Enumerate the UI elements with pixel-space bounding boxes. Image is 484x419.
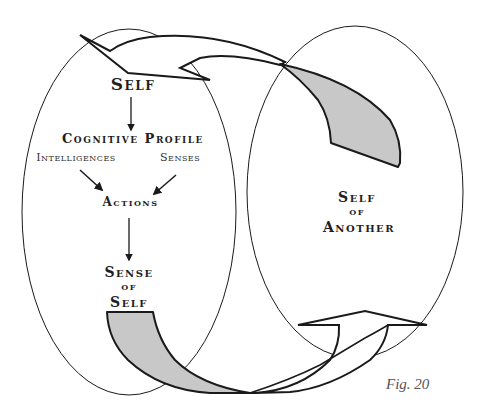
label-intelligences: Intelligences (36, 152, 116, 163)
label-sense-of-self-line3: Self (104, 295, 154, 309)
label-self-of-another-line3: Another (323, 220, 393, 234)
label-sense-of-self-line1: Sense (103, 265, 155, 279)
arrow-intelligences-to-actions (80, 170, 102, 190)
figure-caption: Fig. 20 (386, 376, 429, 393)
arrow-senses-to-actions (154, 175, 176, 194)
diagram-canvas (0, 0, 484, 419)
label-actions: Actions (98, 196, 163, 208)
bottom-arrow-gray-tail (107, 312, 250, 393)
label-cognitive-profile: Cognitive Profile (58, 132, 208, 145)
label-sense-of-self-line2: of (111, 281, 147, 292)
label-self: Self (108, 76, 158, 93)
label-senses: Senses (160, 152, 200, 163)
label-self-of-another-line1: Self (332, 190, 382, 204)
top-arrow-gray-tail (280, 64, 400, 167)
label-self-of-another-line2: of (339, 206, 375, 217)
